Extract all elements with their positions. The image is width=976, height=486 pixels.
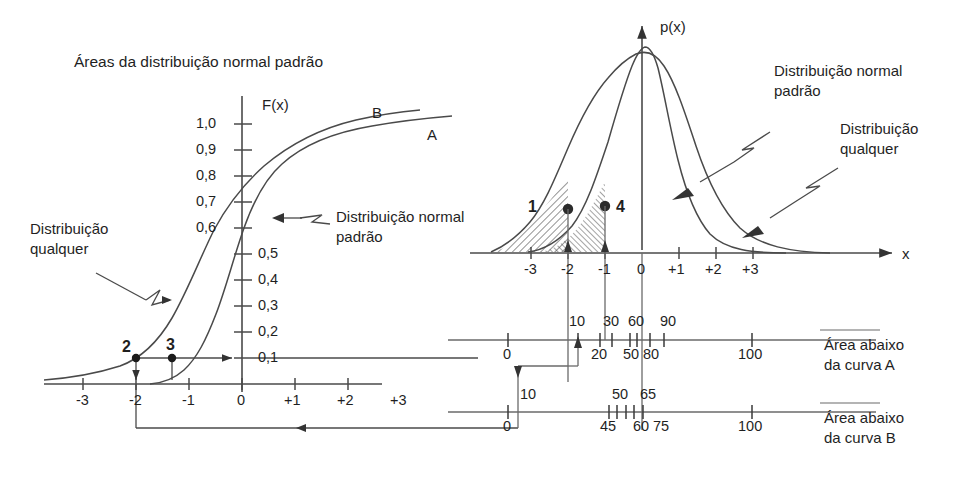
scale-b-below-100: 100 xyxy=(738,418,762,435)
scale-a-above-30: 30 xyxy=(603,313,619,330)
scale-a-below-50: 50 xyxy=(623,346,639,363)
pdf-x-axis-label: x xyxy=(902,245,910,263)
cdf-point-3 xyxy=(168,354,176,362)
arrow-qualquer-right xyxy=(798,168,838,200)
pdf-point-label-4: 4 xyxy=(616,198,625,217)
cdf-xtick-0: 0 xyxy=(237,392,245,409)
cdf-xtick-m2: -2 xyxy=(129,392,142,409)
cdf-ytick-0p3: 0,3 xyxy=(258,297,278,314)
pdf-point-label-1: 1 xyxy=(528,198,537,217)
cdf-curve-label-b: B xyxy=(372,104,382,122)
figure-title: Áreas da distribuição normal padrão xyxy=(74,53,323,71)
pdf-xtick-p1: +1 xyxy=(668,261,685,278)
scale-b-caption-line2: da curva B xyxy=(824,429,896,447)
pdf-y-axis-label: p(x) xyxy=(660,18,686,36)
cdf-point-2 xyxy=(132,354,140,362)
cdf-point-label-2: 2 xyxy=(122,338,131,357)
scale-b-above-65: 65 xyxy=(640,386,656,403)
annotation-normal-right-line2: padrão xyxy=(774,82,821,100)
scale-b-below-0: 0 xyxy=(503,418,511,435)
scale-b-below-45: 45 xyxy=(600,418,616,435)
cdf-ytick-1p0: 1,0 xyxy=(196,115,216,132)
cdf-ytick-0p9: 0,9 xyxy=(196,141,216,158)
scale-a-below-100: 100 xyxy=(738,346,762,363)
cdf-curve-label-a: A xyxy=(427,126,437,144)
cdf-xtick-p3: +3 xyxy=(390,392,407,409)
cdf-y-axis-label: F(x) xyxy=(262,96,289,114)
pdf-xtick-p3: +3 xyxy=(742,261,759,278)
cdf-xtick-p1: +1 xyxy=(284,392,301,409)
annotation-normal-center-line1: Distribuição normal xyxy=(336,208,464,226)
scale-a-pointer xyxy=(574,336,582,348)
cdf-xtick-m3: -3 xyxy=(76,392,89,409)
annotation-qualquer-right-line2: qualquer xyxy=(840,140,898,158)
annotation-qualquer-left-line1: Distribuição xyxy=(30,220,108,238)
cdf-point-label-3: 3 xyxy=(166,336,175,355)
cdf-ytick-0p6: 0,6 xyxy=(196,219,216,236)
scale-a-caption-line1: Área abaixo xyxy=(824,336,904,354)
annotation-qualquer-left-line2: qualquer xyxy=(30,240,88,258)
cdf-xtick-p2: +2 xyxy=(337,392,354,409)
pdf-xtick-p2: +2 xyxy=(705,261,722,278)
scale-b-caption-line1: Área abaixo xyxy=(824,409,904,427)
scale-b-below-60: 60 xyxy=(633,418,649,435)
annotation-normal-center-line2: padrão xyxy=(336,228,383,246)
scale-a-below-0: 0 xyxy=(503,346,511,363)
arrow-normal-center xyxy=(300,215,330,224)
pdf-xtick-0: 0 xyxy=(637,261,645,278)
scale-b-above-50: 50 xyxy=(612,386,628,403)
pdf-xtick-m1: -1 xyxy=(598,261,611,278)
arrow-qualquer-left xyxy=(96,273,146,300)
annotation-qualquer-right-line1: Distribuição xyxy=(840,120,918,138)
cdf-ytick-0p8: 0,8 xyxy=(196,167,216,184)
cdf-ytick-0p7: 0,7 xyxy=(196,193,216,210)
scale-a-above-90: 90 xyxy=(660,313,676,330)
scale-a-above-10: 10 xyxy=(569,313,585,330)
figure-canvas: Áreas da distribuição normal padrão F(x)… xyxy=(0,0,976,486)
scale-b-below-75: 75 xyxy=(653,418,669,435)
cdf-ytick-0p4: 0,4 xyxy=(258,271,278,288)
scale-a-caption-line2: da curva A xyxy=(824,356,895,374)
feedback-arrowhead xyxy=(296,424,306,432)
pdf-xtick-m3: -3 xyxy=(524,261,537,278)
scale-b-above-10: 10 xyxy=(520,386,536,403)
scale-a-below-80: 80 xyxy=(643,346,659,363)
arrow-normal-right xyxy=(734,132,770,162)
cdf-xtick-m1: -1 xyxy=(182,392,195,409)
cdf-ytick-0p5: 0,5 xyxy=(258,245,278,262)
annotation-normal-right-line1: Distribuição normal xyxy=(774,62,902,80)
scale-a-above-60: 60 xyxy=(628,313,644,330)
cdf-ytick-0p2: 0,2 xyxy=(258,323,278,340)
pdf-xtick-m2: -2 xyxy=(561,261,574,278)
cdf-ytick-0p1: 0,1 xyxy=(258,349,278,366)
scale-a-below-20: 20 xyxy=(591,346,607,363)
